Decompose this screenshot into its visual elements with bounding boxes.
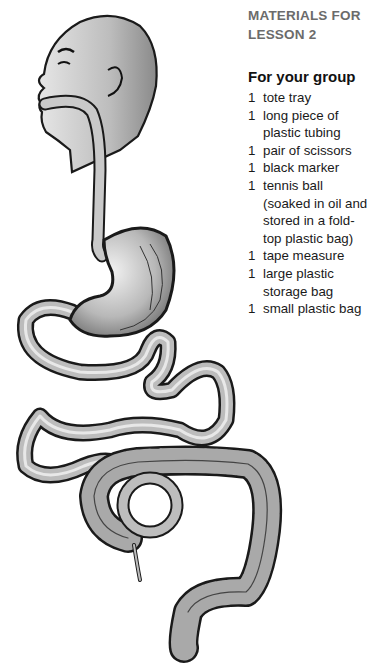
list-item: 1pair of scissors — [248, 142, 370, 160]
stomach-icon — [70, 228, 174, 336]
materials-list: 1tote tray 1long piece of plastic tubing… — [248, 89, 370, 318]
materials-heading: MATERIALS FOR LESSON 2 — [248, 6, 370, 44]
list-item: 1long piece of plastic tubing — [248, 107, 370, 142]
group-subheading: For your group — [248, 68, 370, 86]
list-item: 1small plastic bag — [248, 300, 370, 318]
list-item: 1tape measure — [248, 247, 370, 265]
digestive-tract — [25, 101, 268, 648]
list-item: 1tote tray — [248, 89, 370, 107]
materials-panel: MATERIALS FOR LESSON 2 For your group 1t… — [248, 6, 370, 318]
list-item: 1tennis ball (soaked in oil and stored i… — [248, 177, 370, 247]
list-item: 1large plastic storage bag — [248, 265, 370, 300]
list-item: 1black marker — [248, 159, 370, 177]
